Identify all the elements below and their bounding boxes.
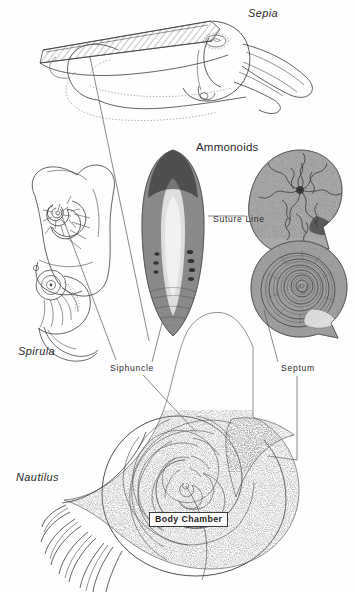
leader-sepia-to-section bbox=[90, 57, 149, 341]
ammonoid-lower bbox=[248, 238, 350, 342]
illustration-layer bbox=[0, 0, 355, 592]
cephalopod-diagram: Sepia Ammonoids Suture Line Spirula Siph… bbox=[0, 0, 355, 592]
nautilus-drawing bbox=[41, 312, 310, 592]
spirula-drawing bbox=[32, 165, 114, 361]
cuttlebone-section bbox=[140, 148, 208, 340]
leader-spirula-siphuncle bbox=[62, 216, 116, 360]
ammonoid-upper bbox=[246, 146, 346, 254]
sepia-drawing bbox=[40, 21, 312, 121]
